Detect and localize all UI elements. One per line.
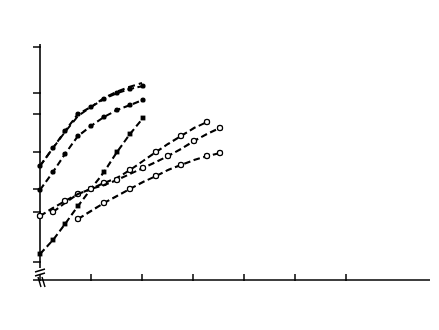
- plot-canvas-overlay: [0, 0, 439, 330]
- chart-figure: [0, 0, 439, 330]
